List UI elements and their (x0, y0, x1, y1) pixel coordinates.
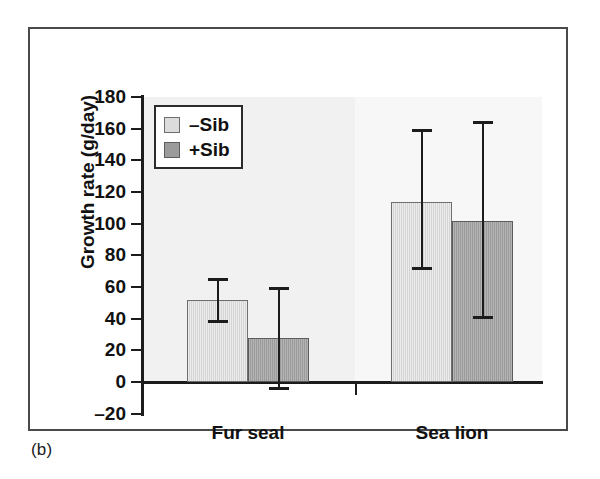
error-bar-stem (278, 287, 280, 390)
error-bar-cap-lower (473, 316, 493, 319)
y-axis-tick (131, 96, 141, 98)
legend-item-minus-sib: –Sib (164, 112, 230, 137)
y-axis-tick (131, 128, 141, 130)
legend-swatch-minus-sib (164, 117, 180, 133)
y-axis-tick-label: –20 (60, 403, 126, 425)
y-axis-tick (131, 413, 141, 415)
error-bar-cap-lower (208, 320, 228, 323)
legend-item-plus-sib: +Sib (164, 137, 230, 162)
y-axis-tick (131, 223, 141, 225)
y-axis-tick (131, 349, 141, 351)
y-axis-tick (131, 286, 141, 288)
y-axis-tick (131, 159, 141, 161)
error-bar-cap-upper (208, 278, 228, 281)
error-bar-cap-upper (412, 129, 432, 132)
y-axis-tick (131, 318, 141, 320)
y-axis-tick-label: 40 (60, 308, 126, 330)
error-bar-cap-lower (412, 267, 432, 270)
y-axis-title: Growth rate (g/day) (77, 62, 99, 302)
y-axis-tick (131, 191, 141, 193)
y-axis-line (141, 95, 144, 416)
legend: –Sib +Sib (154, 105, 243, 169)
y-axis-tick (131, 254, 141, 256)
error-bar-cap-upper (269, 287, 289, 290)
x-axis-category-label: Fur seal (158, 422, 338, 444)
error-bar-stem (482, 121, 484, 319)
legend-label-plus-sib: +Sib (189, 139, 230, 161)
y-axis-tick-label: 20 (60, 339, 126, 361)
y-axis-tick-label: 0 (60, 371, 126, 393)
legend-swatch-plus-sib (164, 142, 180, 158)
legend-label-minus-sib: –Sib (189, 114, 229, 136)
x-axis-category-label: Sea lion (362, 422, 542, 444)
error-bar-stem (421, 129, 423, 270)
figure-frame: 180160140120100806040200–20 Growth rate … (28, 27, 568, 431)
error-bar-stem (217, 278, 219, 324)
error-bar-cap-upper (473, 121, 493, 124)
figure-caption: (b) (31, 440, 52, 460)
y-axis-tick (131, 381, 141, 383)
x-axis-group-separator-tick (355, 384, 357, 395)
error-bar-cap-lower (269, 387, 289, 390)
